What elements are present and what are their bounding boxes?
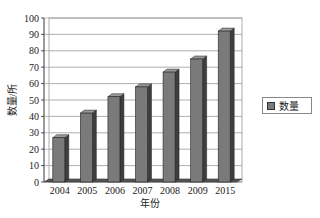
x-tick-label: 2005 xyxy=(77,185,97,196)
y-tick-label: 50 xyxy=(29,95,39,106)
bar-2005 xyxy=(80,110,96,182)
x-tick-label: 2006 xyxy=(105,185,125,196)
x-tick-label: 2004 xyxy=(50,185,70,196)
bar-2015 xyxy=(218,28,234,182)
y-tick-label: 10 xyxy=(29,160,39,171)
y-tick-label: 60 xyxy=(29,78,39,89)
bar-2006 xyxy=(108,94,124,182)
y-tick-label: 90 xyxy=(29,29,39,40)
bar-2008 xyxy=(163,69,179,182)
y-tick-label: 20 xyxy=(29,144,39,155)
y-tick-label: 100 xyxy=(24,13,39,24)
bar-2007 xyxy=(136,84,152,182)
x-axis-ticks: 2004200520062007200820092015 xyxy=(50,185,235,196)
y-tick-label: 30 xyxy=(29,127,39,138)
x-tick-label: 2007 xyxy=(133,185,153,196)
y-tick-label: 40 xyxy=(29,111,39,122)
bar-2009 xyxy=(191,56,207,182)
y-axis-ticks: 0102030405060708090100 xyxy=(24,13,39,188)
y-axis-label: 数量/所 xyxy=(6,84,18,117)
legend: 数量 xyxy=(262,97,312,114)
legend-label: 数量 xyxy=(279,98,299,113)
y-tick-label: 0 xyxy=(34,177,39,188)
x-tick-label: 2015 xyxy=(215,185,235,196)
x-tick-label: 2009 xyxy=(188,185,208,196)
bar-2004 xyxy=(53,135,69,182)
y-tick-label: 70 xyxy=(29,62,39,73)
y-tick-label: 80 xyxy=(29,45,39,56)
x-tick-label: 2008 xyxy=(160,185,180,196)
legend-swatch-icon xyxy=(267,102,275,110)
x-axis-label: 年份 xyxy=(140,197,160,209)
